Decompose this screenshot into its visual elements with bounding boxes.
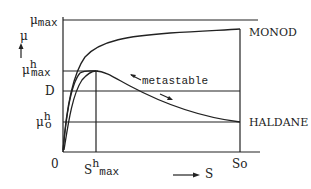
arrow-up-icon bbox=[19, 43, 24, 49]
mu-h-max-label: μhmax bbox=[22, 58, 51, 79]
metastable-label: metastable bbox=[142, 75, 208, 87]
growth-kinetics-diagram: μ μmax μhmax D μho 0 Shmax So S MONOD HA… bbox=[0, 0, 311, 189]
monod-label: MONOD bbox=[249, 26, 297, 39]
y-axis-symbol: μ bbox=[20, 29, 28, 43]
arrow-right-icon bbox=[193, 173, 200, 178]
haldane-curve-rising-outer bbox=[63, 71, 96, 150]
haldane-curve-rising-inner bbox=[64, 71, 96, 150]
x-axis-symbol: S bbox=[205, 167, 213, 181]
mu-max-label: μmax bbox=[30, 13, 58, 29]
s-h-max-label: Shmax bbox=[84, 157, 120, 178]
mu-h-o-label: μho bbox=[36, 110, 52, 131]
so-label: So bbox=[232, 157, 247, 171]
d-label: D bbox=[45, 84, 55, 98]
haldane-label: HALDANE bbox=[249, 116, 308, 129]
origin-label: 0 bbox=[51, 157, 59, 171]
